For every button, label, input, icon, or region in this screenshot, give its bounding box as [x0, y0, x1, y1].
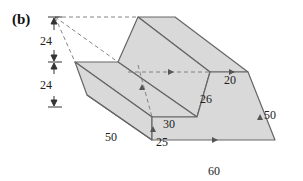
dim-height-upper: 24: [40, 34, 52, 48]
dim-front-width: 60: [208, 164, 220, 178]
block-faces: [75, 17, 275, 140]
block-diagram: (b) 24 24 50 30 26 20 50 60 25: [0, 0, 303, 181]
dim-front-height: 25: [156, 135, 168, 149]
dim-top-ledge: 20: [224, 73, 236, 87]
dim-height-lower: 24: [40, 78, 52, 92]
height-dimension: [48, 17, 62, 107]
dim-groove-wall: 26: [200, 92, 212, 106]
panel-label: (b): [12, 11, 30, 28]
dim-groove-bottom: 30: [163, 117, 175, 131]
dim-depth-left: 50: [105, 130, 117, 144]
dim-right-height: 50: [264, 108, 276, 122]
